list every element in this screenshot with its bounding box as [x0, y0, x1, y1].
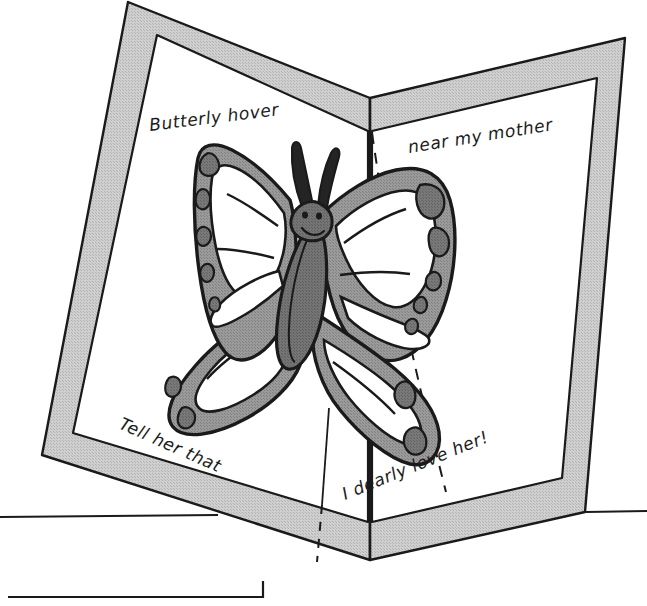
left-eye-icon	[302, 211, 308, 218]
table-edge-left-line	[0, 515, 218, 517]
right-upper-wing-spot-2	[426, 272, 441, 290]
right-upper-wing-spot-top	[416, 184, 444, 218]
left-upper-wing-spot-4	[209, 297, 220, 311]
left-upper-wing-spot-top	[199, 153, 219, 176]
right-upper-wing-spot-1	[429, 228, 449, 257]
caption-box-corner	[8, 581, 263, 597]
illustration-canvas: Butterly hover near my mother Tell her t…	[0, 0, 647, 606]
pop-up-card-illustration: Butterly hover near my mother Tell her t…	[0, 0, 647, 606]
right-upper-wing-spot-3	[414, 297, 427, 313]
right-eye-icon	[316, 212, 322, 219]
left-upper-wing-spot-1	[196, 189, 210, 209]
left-lower-wing-spot-2	[165, 377, 181, 397]
left-upper-wing-spot-3	[200, 264, 214, 282]
left-lower-wing-spot-1	[178, 407, 195, 428]
butterfly-head	[291, 202, 332, 241]
right-lower-wing-spot-1	[395, 381, 416, 408]
left-upper-wing-spot-2	[196, 227, 211, 246]
right-upper-wing-spot-4	[405, 319, 418, 334]
table-edge-right-line	[586, 511, 647, 512]
